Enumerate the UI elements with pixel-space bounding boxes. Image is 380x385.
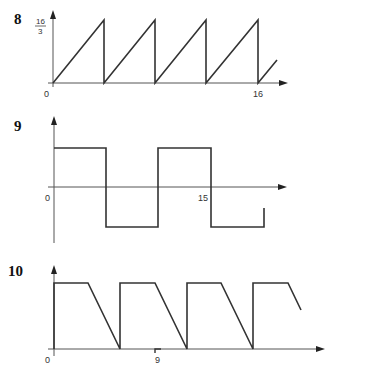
- figure-8-x-label-0: 0: [44, 89, 49, 99]
- figure-10: 10 0 9: [8, 263, 325, 365]
- figures-canvas: 8 16 3 0 16 9 0 15 10: [0, 0, 380, 385]
- figure-9: 9 0 15: [14, 116, 287, 243]
- figure-8-number: 8: [14, 11, 22, 27]
- figure-10-decay-wave-curve: [54, 283, 301, 349]
- figure-8-sawtooth-curve: [53, 20, 277, 83]
- figure-10-x-label-9: 9: [155, 355, 160, 365]
- figure-10-tick-9: [155, 349, 161, 353]
- figure-8-x-label-16: 16: [253, 89, 263, 99]
- figure-8-x-arrow-icon: [279, 80, 288, 86]
- figure-8-y-label-denominator: 3: [38, 27, 43, 36]
- figure-9-y-arrow-icon: [51, 116, 57, 125]
- figure-8-y-label-numerator: 16: [36, 17, 45, 26]
- figure-9-number: 9: [14, 118, 22, 134]
- figure-9-x-arrow-icon: [278, 184, 287, 190]
- figure-8: 8 16 3 0 16: [14, 10, 288, 99]
- figure-10-y-arrow-icon: [51, 265, 57, 274]
- figure-8-y-arrow-icon: [50, 10, 56, 19]
- figure-10-x-label-0: 0: [45, 355, 50, 365]
- figure-9-x-label-0: 0: [45, 193, 50, 203]
- figure-9-x-label-15: 15: [198, 193, 208, 203]
- figure-10-number: 10: [8, 263, 23, 279]
- figure-10-x-arrow-icon: [316, 346, 325, 352]
